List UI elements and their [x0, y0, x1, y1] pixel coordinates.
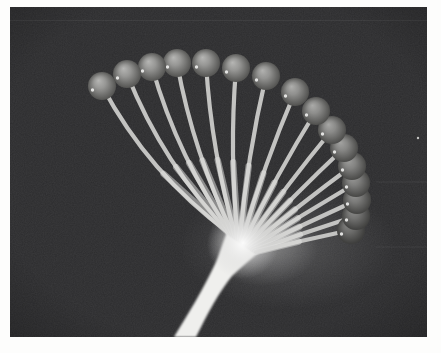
- photo-root: [10, 7, 427, 337]
- page-background: [0, 0, 441, 353]
- photo-canvas: [0, 0, 441, 353]
- strobe-photograph: [0, 0, 441, 353]
- vignette: [10, 7, 427, 337]
- photo-layers: [10, 7, 427, 337]
